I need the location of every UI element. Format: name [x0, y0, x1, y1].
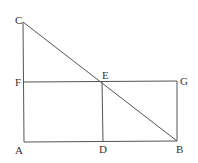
segment-ed	[102, 82, 103, 142]
label-a: A	[15, 144, 23, 156]
segment-ca	[23, 22, 24, 142]
segment-ab	[24, 141, 177, 142]
geometry-diagram: C F E G A D B	[0, 0, 198, 163]
label-c: C	[15, 14, 22, 26]
label-g: G	[180, 75, 188, 87]
label-d: D	[99, 143, 107, 155]
segment-fg	[24, 81, 177, 82]
label-b: B	[176, 143, 183, 155]
label-e: E	[102, 69, 109, 81]
label-f: F	[15, 76, 21, 88]
